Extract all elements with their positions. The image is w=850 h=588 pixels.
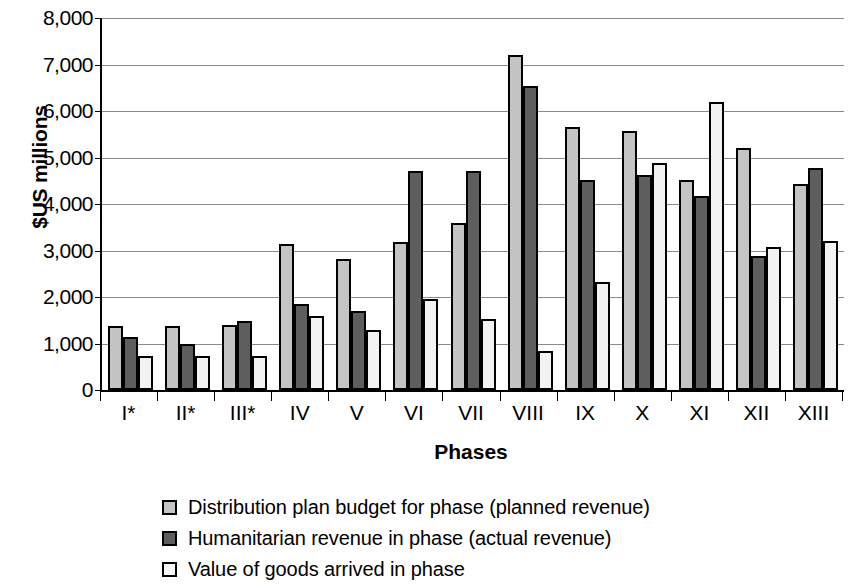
bar	[508, 55, 523, 390]
y-tick-mark	[95, 297, 102, 298]
x-tick-mark	[271, 392, 272, 401]
bar	[709, 102, 724, 390]
legend-item: Distribution plan budget for phase (plan…	[162, 492, 762, 523]
x-tick-mark	[214, 392, 215, 401]
x-tick-mark	[100, 392, 101, 401]
bar	[408, 171, 423, 390]
bar	[309, 316, 324, 390]
bar	[766, 247, 781, 390]
bar	[793, 184, 808, 390]
bar	[108, 326, 123, 390]
bar	[252, 356, 267, 390]
bar	[679, 180, 694, 390]
x-tick-label: XIII	[785, 401, 842, 425]
x-tick-label: II*	[157, 401, 214, 425]
chart-legend: Distribution plan budget for phase (plan…	[162, 492, 762, 585]
bar	[423, 299, 438, 390]
y-tick-mark	[95, 158, 102, 159]
bar-group	[387, 18, 444, 390]
y-tick-label: 2,000	[43, 285, 93, 309]
y-tick-label: 5,000	[43, 146, 93, 170]
legend-label: Humanitarian revenue in phase (actual re…	[188, 527, 611, 550]
y-tick-label: 7,000	[43, 53, 93, 77]
x-tick-label: VII	[442, 401, 499, 425]
bar-group	[730, 18, 787, 390]
bar	[751, 256, 766, 390]
legend-item: Value of goods arrived in phase	[162, 554, 762, 585]
bar	[808, 168, 823, 390]
y-tick-mark	[95, 204, 102, 205]
x-tick-label: XII	[728, 401, 785, 425]
x-tick-label: VI	[385, 401, 442, 425]
bar-group	[159, 18, 216, 390]
y-tick-label: 1,000	[43, 332, 93, 356]
bar	[823, 241, 838, 390]
y-tick-mark	[95, 344, 102, 345]
x-tick-label: I*	[100, 401, 157, 425]
bar-group	[102, 18, 159, 390]
y-tick-label: 4,000	[43, 192, 93, 216]
x-tick-mark	[842, 392, 843, 401]
x-tick-label: VIII	[500, 401, 557, 425]
bar	[366, 330, 381, 390]
y-tick-mark	[95, 390, 102, 391]
legend-swatch	[162, 562, 177, 577]
bar	[466, 171, 481, 390]
x-tick-mark	[328, 392, 329, 401]
bar	[481, 319, 496, 390]
y-tick-mark	[95, 65, 102, 66]
legend-item: Humanitarian revenue in phase (actual re…	[162, 523, 762, 554]
bar	[138, 356, 153, 390]
x-tick-mark	[157, 392, 158, 401]
bar-groups	[102, 18, 844, 390]
bar	[538, 351, 553, 390]
bar	[736, 148, 751, 390]
y-tick-mark	[95, 18, 102, 19]
bar	[451, 223, 466, 390]
bar	[393, 242, 408, 390]
bar-group	[444, 18, 501, 390]
plot-area: 8,0007,0006,0005,0004,0003,0002,0001,000…	[100, 18, 844, 392]
y-tick-label: 3,000	[43, 239, 93, 263]
x-tick-mark	[614, 392, 615, 401]
x-tick-label: IX	[557, 401, 614, 425]
x-tick-mark	[385, 392, 386, 401]
bar	[580, 180, 595, 390]
bar	[165, 326, 180, 390]
x-tick-label: IV	[271, 401, 328, 425]
x-tick-label: XI	[671, 401, 728, 425]
bar	[279, 244, 294, 390]
bar	[622, 131, 637, 390]
x-axis-tick-labels: I*II*III*IVVVIVIIVIIIIXXXIXIIXIII	[100, 401, 842, 425]
bar	[222, 325, 237, 390]
bar	[694, 196, 709, 390]
bar	[351, 311, 366, 390]
bar-chart-figure: $US millions 8,0007,0006,0005,0004,0003,…	[0, 0, 850, 588]
bar	[523, 86, 538, 390]
y-tick-mark	[95, 111, 102, 112]
x-tick-label: X	[614, 401, 671, 425]
x-tick-mark	[442, 392, 443, 401]
legend-swatch	[162, 531, 177, 546]
bar-group	[273, 18, 330, 390]
legend-label: Distribution plan budget for phase (plan…	[188, 496, 650, 519]
x-tick-mark	[671, 392, 672, 401]
bar-group	[616, 18, 673, 390]
y-tick-label: 0	[82, 378, 93, 402]
bar-group	[673, 18, 730, 390]
bar	[565, 127, 580, 390]
x-axis: I*II*III*IVVVIVIIVIIIIXXXIXIIXIII	[100, 392, 842, 438]
bar	[652, 163, 667, 390]
bar	[294, 304, 309, 390]
x-tick-mark	[728, 392, 729, 401]
x-tick-mark	[500, 392, 501, 401]
bar-group	[216, 18, 273, 390]
legend-swatch	[162, 500, 177, 515]
bar	[336, 259, 351, 390]
bar-group	[559, 18, 616, 390]
x-tick-mark	[785, 392, 786, 401]
bar	[195, 356, 210, 390]
y-tick-label: 6,000	[43, 99, 93, 123]
x-tick-mark	[557, 392, 558, 401]
bar	[180, 344, 195, 391]
